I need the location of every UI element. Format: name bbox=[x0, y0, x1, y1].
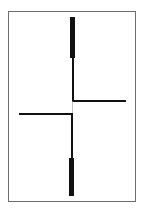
diagram-canvas bbox=[0, 0, 143, 211]
bottom-thick-bar bbox=[69, 158, 74, 196]
top-thick-bar bbox=[70, 17, 75, 58]
